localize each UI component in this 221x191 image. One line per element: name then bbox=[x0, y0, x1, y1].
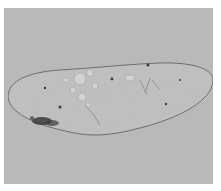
micrograph bbox=[0, 0, 221, 191]
